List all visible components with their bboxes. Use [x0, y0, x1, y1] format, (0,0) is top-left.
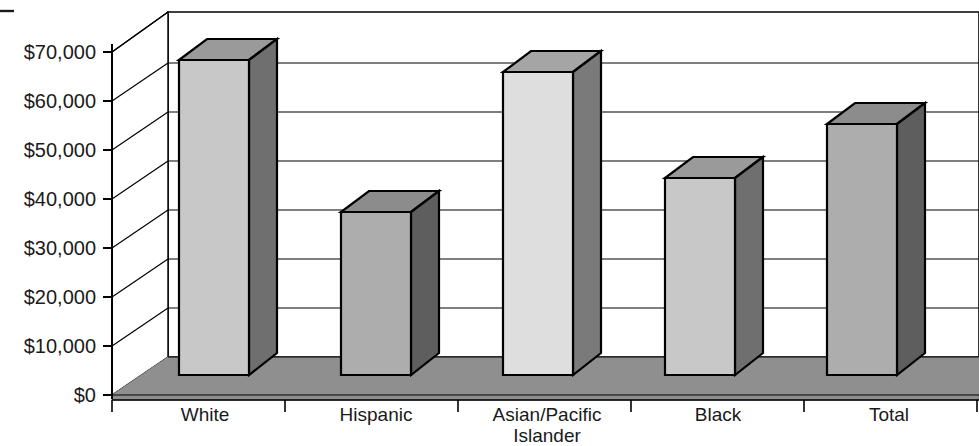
- x-tick-label-black: Black: [695, 404, 742, 425]
- bar-front-face: [665, 178, 735, 375]
- y-tick-label: $50,000: [24, 139, 96, 161]
- bar-front-face: [179, 60, 249, 375]
- bar-front-face: [341, 212, 411, 375]
- x-tick-label-total: Total: [869, 404, 909, 425]
- x-tick-label-asian-line2: Islander: [513, 425, 581, 446]
- y-tick-label: $10,000: [24, 335, 96, 357]
- y-tick-label: $20,000: [24, 286, 96, 308]
- y-tick-label: $30,000: [24, 237, 96, 259]
- bar-asian-pacific-islander[interactable]: [503, 51, 601, 375]
- chart-left-wall: [112, 12, 168, 395]
- bar-chart-3d: $70,000 $60,000 $50,000 $40,000 $30,000 …: [0, 0, 979, 446]
- bar-hispanic[interactable]: [341, 191, 439, 375]
- bar-front-face: [827, 124, 897, 375]
- y-tick-label: $40,000: [24, 188, 96, 210]
- bar-total[interactable]: [827, 103, 925, 375]
- y-tick-label: $0: [74, 384, 96, 406]
- chart-container: $70,000 $60,000 $50,000 $40,000 $30,000 …: [0, 0, 979, 446]
- x-tick-label-asian-line1: Asian/Pacific: [493, 404, 602, 425]
- x-tick-label-white: White: [181, 404, 230, 425]
- x-tick-label-hispanic: Hispanic: [340, 404, 413, 425]
- bar-side-face: [411, 191, 439, 375]
- bar-side-face: [897, 103, 925, 375]
- y-axis-ticks: [103, 52, 112, 395]
- bar-side-face: [573, 51, 601, 375]
- bar-front-face: [503, 72, 573, 375]
- bar-black[interactable]: [665, 157, 763, 375]
- bar-side-face: [735, 157, 763, 375]
- bar-white[interactable]: [179, 39, 277, 375]
- x-axis-tick-labels: White Hispanic Asian/Pacific Islander Bl…: [181, 404, 909, 446]
- y-tick-label: $60,000: [24, 90, 96, 112]
- y-tick-label: $70,000: [24, 41, 96, 63]
- y-axis-tick-labels: $70,000 $60,000 $50,000 $40,000 $30,000 …: [24, 41, 96, 406]
- bar-side-face: [249, 39, 277, 375]
